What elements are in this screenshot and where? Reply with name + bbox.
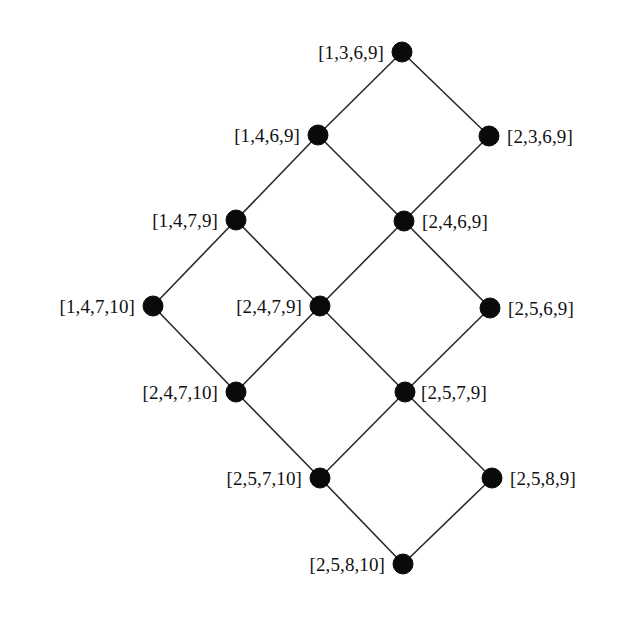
lattice-node[interactable]: [226, 210, 246, 230]
lattice-edge: [404, 136, 489, 221]
lattice-edge: [402, 52, 489, 136]
node-layer: [143, 42, 502, 574]
lattice-node[interactable]: [482, 468, 502, 488]
lattice-node-label: [2,5,8,10]: [310, 555, 385, 574]
lattice-node-label: [2,4,7,10]: [143, 383, 218, 402]
lattice-node[interactable]: [143, 296, 163, 316]
lattice-edge: [403, 478, 492, 564]
lattice-edge: [320, 306, 405, 392]
lattice-edge: [320, 478, 403, 564]
lattice-edge: [153, 220, 236, 306]
lattice-node[interactable]: [394, 211, 414, 231]
lattice-node[interactable]: [480, 298, 500, 318]
lattice-node[interactable]: [310, 468, 330, 488]
lattice-node[interactable]: [226, 382, 246, 402]
lattice-edge: [318, 135, 404, 221]
lattice-node[interactable]: [392, 42, 412, 62]
lattice-node[interactable]: [395, 382, 415, 402]
lattice-edge: [236, 220, 320, 306]
lattice-edge: [320, 392, 405, 478]
lattice-node-label: [2,5,8,9]: [510, 469, 576, 488]
lattice-edge: [153, 306, 236, 392]
lattice-node[interactable]: [308, 125, 328, 145]
lattice-edge: [236, 392, 320, 478]
lattice-node-label: [2,5,7,10]: [227, 469, 302, 488]
lattice-node-label: [1,4,6,9]: [234, 126, 300, 145]
lattice-node-label: [1,3,6,9]: [318, 43, 384, 62]
lattice-node[interactable]: [310, 296, 330, 316]
lattice-node[interactable]: [479, 126, 499, 146]
lattice-edge: [405, 308, 490, 392]
lattice-edge: [318, 52, 402, 135]
lattice-node-label: [1,4,7,10]: [60, 297, 135, 316]
lattice-node-label: [2,3,6,9]: [507, 127, 573, 146]
lattice-edge: [236, 306, 320, 392]
lattice-edge: [404, 221, 490, 308]
lattice-node-label: [2,4,7,9]: [236, 297, 302, 316]
lattice-node-label: [2,5,6,9]: [508, 299, 574, 318]
lattice-node-label: [2,4,6,9]: [422, 212, 488, 231]
lattice-edge: [320, 221, 404, 306]
lattice-node-label: [2,5,7,9]: [421, 383, 487, 402]
lattice-node-label: [1,4,7,9]: [152, 211, 218, 230]
lattice-node[interactable]: [393, 554, 413, 574]
lattice-diagram: [1,3,6,9][1,4,6,9][2,3,6,9][1,4,7,9][2,4…: [0, 0, 632, 618]
lattice-edge: [236, 135, 318, 220]
lattice-edge: [405, 392, 492, 478]
